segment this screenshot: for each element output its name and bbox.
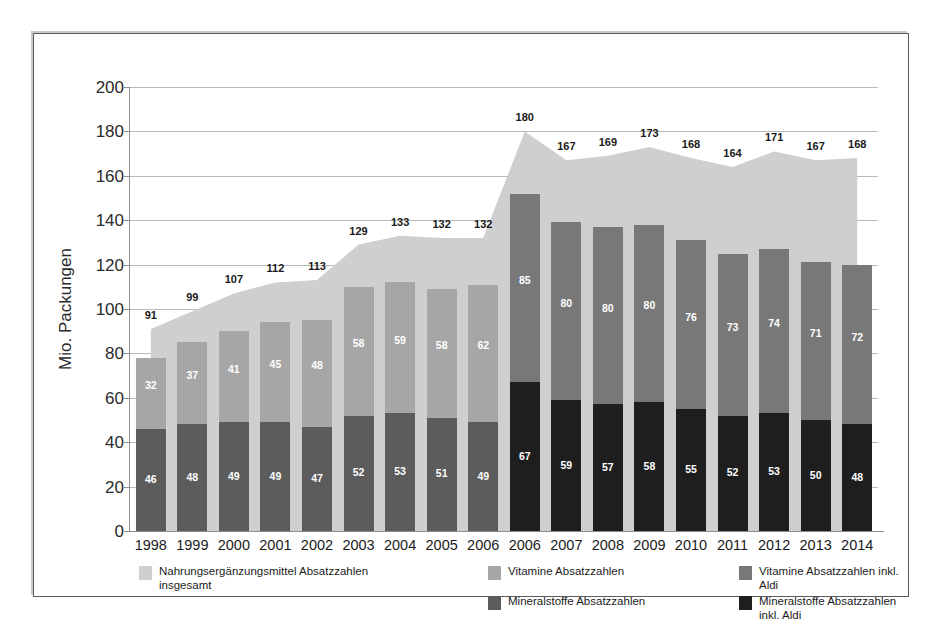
bar-segment-vitamins: 59: [385, 282, 415, 413]
bar-column: 4872: [842, 265, 872, 531]
bar-segment-value: 85: [510, 274, 540, 286]
bar-column: 4632: [136, 358, 166, 531]
bar-segment-value: 47: [302, 472, 332, 484]
y-axis-tick-mark: [124, 531, 130, 532]
legend-item[interactable]: Mineralstoffe Absatzzahlen inkl. Aldi: [739, 595, 899, 622]
bar-segment-vitamins: 80: [634, 225, 664, 403]
legend-item[interactable]: Mineralstoffe Absatzzahlen: [488, 595, 645, 610]
y-axis-tick-mark: [124, 220, 130, 221]
bar-segment-value: 71: [801, 327, 831, 339]
bar-segment-minerals: 59: [551, 400, 581, 531]
x-axis-tick-label: 2004: [384, 537, 416, 553]
bar-segment-minerals: 51: [427, 418, 457, 531]
bar-segment-value: 48: [302, 359, 332, 371]
total-value-label: 164: [723, 147, 741, 159]
y-axis-tick-label: 60: [64, 389, 124, 409]
bar-segment-vitamins: 72: [842, 265, 872, 425]
bar-column: 4748: [302, 320, 332, 531]
bar-segment-vitamins: 74: [759, 249, 789, 413]
total-value-label: 112: [267, 262, 285, 274]
bar-segment-value: 72: [842, 331, 872, 343]
bar-segment-minerals: 55: [676, 409, 706, 531]
bar-segment-value: 32: [136, 379, 166, 391]
y-axis-label: Mio. Packungen: [56, 248, 76, 370]
y-axis-tick-mark: [124, 353, 130, 354]
bar-segment-value: 52: [718, 466, 748, 478]
bar-column: 5273: [718, 254, 748, 532]
bar-segment-value: 46: [136, 473, 166, 485]
x-axis-tick-label: 2005: [426, 537, 458, 553]
x-axis-tick-label: 2008: [592, 537, 624, 553]
bar-segment-value: 48: [842, 471, 872, 483]
bar-segment-value: 50: [801, 469, 831, 481]
y-axis-tick-mark: [124, 265, 130, 266]
legend-item[interactable]: Nahrungsergänzungsmittel Absatzzahlen in…: [139, 565, 374, 592]
bar-segment-value: 45: [260, 358, 290, 370]
bar-segment-vitamins: 41: [219, 331, 249, 422]
x-axis-tick-label: 2011: [717, 537, 748, 553]
bar-segment-minerals: 52: [344, 416, 374, 531]
total-value-label: 168: [848, 138, 866, 150]
bar-segment-value: 58: [344, 337, 374, 349]
bar-segment-value: 59: [551, 459, 581, 471]
legend-label: Mineralstoffe Absatzzahlen inkl. Aldi: [759, 595, 899, 622]
bar-segment-vitamins: 48: [302, 320, 332, 427]
legend-swatch: [739, 566, 752, 580]
y-axis-tick-label: 160: [64, 167, 124, 187]
bar-column: 6785: [510, 194, 540, 531]
bar-segment-vitamins: 71: [801, 262, 831, 420]
bar-segment-minerals: 48: [842, 424, 872, 531]
bar-segment-vitamins: 62: [468, 285, 498, 423]
bar-segment-minerals: 47: [302, 427, 332, 531]
bar-column: 5374: [759, 249, 789, 531]
bar-segment-value: 62: [468, 339, 498, 351]
legend-swatch: [488, 566, 501, 580]
chart-page: 4632483749414945474852585359515849626785…: [0, 0, 943, 630]
y-axis-tick-label: 0: [64, 522, 124, 542]
legend-label: Mineralstoffe Absatzzahlen: [508, 595, 645, 609]
bar-segment-vitamins: 45: [260, 322, 290, 422]
bar-column: 4837: [177, 342, 207, 531]
bar-column: 5258: [344, 287, 374, 531]
y-axis-tick-mark: [124, 398, 130, 399]
bar-column: 4941: [219, 331, 249, 531]
bar-column: 5158: [427, 289, 457, 531]
legend-swatch: [739, 596, 752, 610]
total-value-label: 171: [765, 131, 783, 143]
bar-column: 5576: [676, 240, 706, 531]
bar-segment-value: 49: [260, 470, 290, 482]
total-value-label: 180: [516, 111, 534, 123]
y-axis-tick-label: 200: [64, 78, 124, 98]
plot-area: 4632483749414945474852585359515849626785…: [130, 87, 878, 531]
legend-label: Vitamine Absatzzahlen inkl. Aldi: [759, 565, 899, 592]
bar-segment-minerals: 49: [219, 422, 249, 531]
bar-segment-value: 80: [551, 297, 581, 309]
bar-segment-minerals: 53: [759, 413, 789, 531]
y-axis-tick-mark: [124, 309, 130, 310]
bar-segment-vitamins: 80: [593, 227, 623, 405]
x-axis-tick-label: 2014: [841, 537, 873, 553]
y-axis-tick-mark: [124, 442, 130, 443]
legend-item[interactable]: Vitamine Absatzzahlen inkl. Aldi: [739, 565, 899, 592]
bar-segment-value: 58: [634, 460, 664, 472]
bar-segment-value: 49: [468, 470, 498, 482]
bar-segment-minerals: 46: [136, 429, 166, 531]
bar-column: 5980: [551, 222, 581, 531]
bar-segment-value: 48: [177, 471, 207, 483]
total-value-label: 107: [225, 273, 243, 285]
bar-segment-vitamins: 73: [718, 254, 748, 416]
total-value-label: 113: [308, 260, 326, 272]
bar-segment-value: 58: [427, 339, 457, 351]
bar-segment-minerals: 58: [634, 402, 664, 531]
total-value-label: 173: [640, 127, 658, 139]
bar-column: 5071: [801, 262, 831, 531]
bar-segment-minerals: 49: [260, 422, 290, 531]
legend-label: Vitamine Absatzzahlen: [508, 565, 624, 579]
bar-column: 5359: [385, 282, 415, 531]
bar-segment-value: 53: [385, 465, 415, 477]
bar-segment-value: 80: [593, 302, 623, 314]
y-axis-tick-label: 40: [64, 433, 124, 453]
legend-item[interactable]: Vitamine Absatzzahlen: [488, 565, 624, 580]
bar-column: 4962: [468, 285, 498, 531]
bar-segment-value: 49: [219, 470, 249, 482]
